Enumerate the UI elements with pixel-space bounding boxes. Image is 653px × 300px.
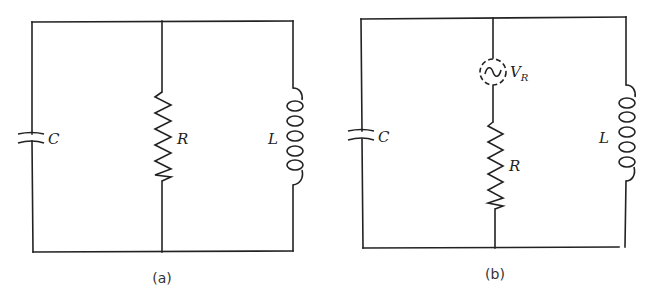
wire-left-upper-b: [361, 19, 362, 131]
resistor-a: [155, 92, 171, 181]
wire-right-lower-b: [625, 181, 626, 247]
capacitor-b: [348, 130, 374, 141]
inductor-b: [619, 85, 635, 181]
source-label-b: VR: [510, 63, 529, 83]
inductor-a: [287, 88, 303, 185]
caption-b: (b): [485, 266, 505, 282]
capacitor-a: [18, 133, 44, 144]
inductor-label-b: L: [598, 129, 609, 147]
circuit-b: C VR R L (b): [348, 17, 635, 282]
circuit-a: C R L (a): [18, 21, 303, 286]
caption-a: (a): [152, 270, 172, 286]
sine-wave-icon: [485, 68, 501, 77]
inductor-label-a: L: [267, 130, 278, 148]
resistor-label-b: R: [508, 157, 520, 175]
capacitor-label-b: C: [378, 128, 390, 146]
circuit-figure: C R L (a) C: [0, 0, 653, 300]
resistor-b: [488, 122, 503, 209]
resistor-label-a: R: [176, 130, 188, 148]
wire-left-lower-a: [32, 141, 33, 252]
wire-bottom-a: [33, 251, 293, 252]
capacitor-label-a: C: [48, 130, 60, 148]
wire-left-lower-b: [362, 139, 363, 248]
ac-source-b: [480, 59, 506, 85]
wire-bottom-b: [363, 247, 619, 248]
